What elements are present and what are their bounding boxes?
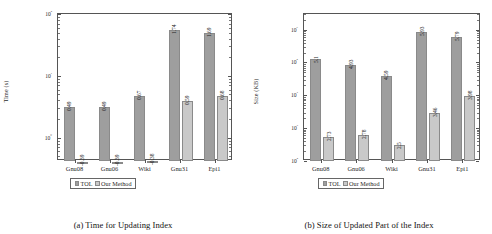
y-tick-minor <box>229 156 231 157</box>
y-tick-label: 10⁶ <box>246 25 298 33</box>
y-tick-minor <box>229 79 231 80</box>
y-tick-label: 10³ <box>246 123 298 131</box>
bar-tol <box>381 76 392 161</box>
y-tick-minor <box>229 119 231 120</box>
bar-value-label: 1.69 <box>206 28 212 38</box>
bar-tol <box>451 37 462 161</box>
bar-value-label: 0.59 <box>184 96 190 106</box>
y-tick-major <box>228 14 231 15</box>
x-tick-label-gnu06: Gnu06 <box>101 165 118 172</box>
y-tick-minor <box>58 100 60 101</box>
bar-tol <box>64 107 75 161</box>
y-tick-major <box>304 161 307 162</box>
x-tick <box>215 160 216 163</box>
panel-a-plot: Time (s) 0.49-0.390.49-0.390.67-0.381.74… <box>0 0 246 196</box>
x-tick <box>356 160 357 163</box>
y-tick-minor <box>477 151 479 152</box>
legend-label-tol: TOL <box>329 180 341 187</box>
y-tick-minor <box>477 43 479 44</box>
y-tick-minor <box>304 103 306 104</box>
y-tick-minor <box>477 14 479 15</box>
bar-our-method <box>358 135 369 161</box>
panel-b-caption: (b) Size of Updated Part of the Index <box>246 220 492 230</box>
y-tick-minor <box>58 147 60 148</box>
y-tick-minor <box>304 105 306 106</box>
y-tick-minor <box>304 33 306 34</box>
legend-label-tol: TOL <box>81 180 93 187</box>
legend-entry-tol: TOL <box>75 180 93 187</box>
y-tick-minor <box>477 72 479 73</box>
y-tick-minor <box>304 100 306 101</box>
y-tick-minor <box>58 57 60 58</box>
y-tick-minor <box>58 156 60 157</box>
y-tick-label: 10¹ <box>0 71 52 79</box>
y-tick-minor <box>304 108 306 109</box>
y-tick-minor <box>304 130 306 131</box>
y-tick-minor <box>229 85 231 86</box>
panel-b-legend: TOL Our Method <box>318 178 384 189</box>
figure-row: Time (s) 0.49-0.390.49-0.390.67-0.381.74… <box>0 0 492 234</box>
bar-tol <box>99 107 110 161</box>
y-tick-minor <box>304 72 306 73</box>
y-tick-minor <box>304 43 306 44</box>
bar-value-label: 5.93 <box>419 26 425 36</box>
y-tick-minor <box>477 99 479 100</box>
y-tick-minor <box>304 47 306 48</box>
y-tick-minor <box>304 31 306 32</box>
y-tick-minor <box>477 37 479 38</box>
y-tick-minor <box>477 35 479 36</box>
y-tick-minor <box>304 14 306 15</box>
panel-a: Time (s) 0.49-0.390.49-0.390.67-0.381.74… <box>0 0 246 234</box>
bar-value-label: 2.78 <box>361 130 367 140</box>
bar-tol <box>310 59 321 161</box>
x-tick <box>110 160 111 163</box>
legend-entry-our-method: Our Method <box>95 180 132 187</box>
y-tick-minor <box>58 141 60 142</box>
y-tick-minor <box>477 97 479 98</box>
bar-value-label: -0.38 <box>149 154 155 165</box>
y-tick-minor <box>229 90 231 91</box>
y-tick-minor <box>229 20 231 21</box>
y-tick-label: 10² <box>246 156 298 164</box>
y-tick-label: 10² <box>0 9 52 17</box>
x-tick-label-gnu06: Gnu06 <box>347 165 364 172</box>
y-tick-minor <box>477 135 479 136</box>
y-tick-minor <box>229 24 231 25</box>
bar-value-label: 0.49 <box>66 102 72 112</box>
y-tick-minor <box>477 118 479 119</box>
bar-value-label: 3.98 <box>467 90 473 100</box>
y-tick-minor <box>477 40 479 41</box>
x-tick <box>392 160 393 163</box>
y-tick-minor <box>304 37 306 38</box>
y-tick-minor <box>477 85 479 86</box>
y-tick-minor <box>477 64 479 65</box>
y-tick-minor <box>229 33 231 34</box>
y-tick-minor <box>477 76 479 77</box>
bar-value-label: 0.49 <box>101 102 107 112</box>
y-tick-minor <box>229 100 231 101</box>
legend-swatch-our-method-icon <box>343 181 348 187</box>
y-tick-major <box>58 76 61 77</box>
y-tick-major <box>228 76 231 77</box>
x-tick-label-epi1: Epi1 <box>456 165 468 172</box>
y-tick-minor <box>304 35 306 36</box>
y-tick-minor <box>58 85 60 86</box>
y-tick-minor <box>229 39 231 40</box>
y-tick-minor <box>477 130 479 131</box>
y-tick-minor <box>58 79 60 80</box>
bar-value-label: 0.68 <box>219 90 225 100</box>
bar-value-label: 5.1 <box>313 56 319 63</box>
panel-b: Size (KB) 5.12.734.932.784.592.55.933.46… <box>246 0 492 234</box>
bar-value-label: 3.46 <box>432 107 438 117</box>
legend-swatch-our-method-icon <box>95 181 100 187</box>
y-tick-label: 10⁴ <box>246 90 298 98</box>
x-tick <box>427 160 428 163</box>
y-tick-minor <box>304 141 306 142</box>
y-tick-minor <box>477 141 479 142</box>
y-tick-minor <box>304 53 306 54</box>
panel-a-caption: (a) Time for Updating Index <box>0 220 246 230</box>
y-tick-minor <box>58 17 60 18</box>
y-tick-minor <box>304 138 306 139</box>
y-tick-label: 10⁵ <box>246 58 298 66</box>
x-tick-label-wiki: Wiki <box>138 165 151 172</box>
